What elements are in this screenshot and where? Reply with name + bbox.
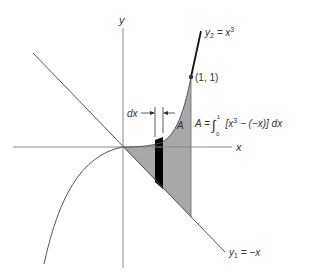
- y1-label: y1 = −x: [228, 247, 261, 259]
- point-1-1-dot: [189, 75, 193, 79]
- dx-right-arrowhead: [163, 111, 168, 115]
- y-axis-label: y: [118, 14, 126, 26]
- area-diagram: y x y2 = x3 (1, 1) dx A A =∫10[x3 − (−x)…: [0, 0, 316, 278]
- dx-left-arrowhead: [150, 111, 155, 115]
- point-1-1-label: (1, 1): [195, 72, 218, 83]
- dx-label: dx: [127, 108, 139, 119]
- x-axis-label: x: [235, 141, 242, 153]
- region-a-label: A: [176, 120, 184, 131]
- area-formula: A =∫10[x3 − (−x)] dx: [194, 114, 283, 137]
- y2-label: y2 = x3: [204, 26, 234, 39]
- curve-y2-upper: [191, 31, 201, 77]
